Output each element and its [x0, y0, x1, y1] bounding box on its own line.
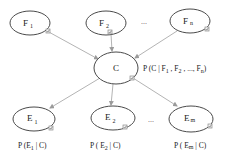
edge-f1-c [47, 31, 98, 59]
node-f1[interactable]: F1 [10, 11, 50, 35]
checkbox-icon [208, 124, 212, 128]
e2-probability-label: P ( E2 | C) [90, 141, 121, 151]
edge-c-e2 [111, 84, 113, 105]
node-e1[interactable]: E1 [13, 107, 55, 131]
effect-ellipsis: ... [148, 115, 154, 124]
edge-f2-c [111, 34, 112, 51]
checkbox-icon [108, 30, 112, 34]
e1-probability-label: P (E1 | C) [18, 141, 47, 151]
node-c-label: C [113, 63, 119, 73]
checkbox-icon [49, 126, 53, 130]
node-c[interactable]: C [94, 52, 138, 84]
edge-fn-c [135, 31, 177, 58]
edge-c-em [133, 78, 177, 106]
em-probability-label: P ( Em | C) [174, 141, 207, 150]
checkbox-icon [46, 29, 50, 33]
node-f2[interactable]: F2 [86, 11, 126, 35]
bayesian-network-diagram: F1 F2 ... Fn C P (C | F1 , F2 , ... [0, 0, 229, 158]
node-e2[interactable]: E2 [91, 106, 135, 130]
checkbox-icon [123, 125, 127, 129]
checkbox-icon [130, 76, 134, 80]
node-fn[interactable]: Fn [170, 9, 210, 33]
checkbox-icon [205, 27, 209, 31]
class-probability-label: P (C | F1 , F2 , ..., Fn) [143, 64, 207, 74]
edge-c-e1 [50, 78, 100, 108]
node-em[interactable]: Em [169, 106, 213, 132]
feature-ellipsis: ... [141, 17, 147, 26]
